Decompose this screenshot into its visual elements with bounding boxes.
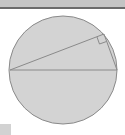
corner-patch xyxy=(0,124,11,135)
thales-diagram xyxy=(0,0,125,135)
